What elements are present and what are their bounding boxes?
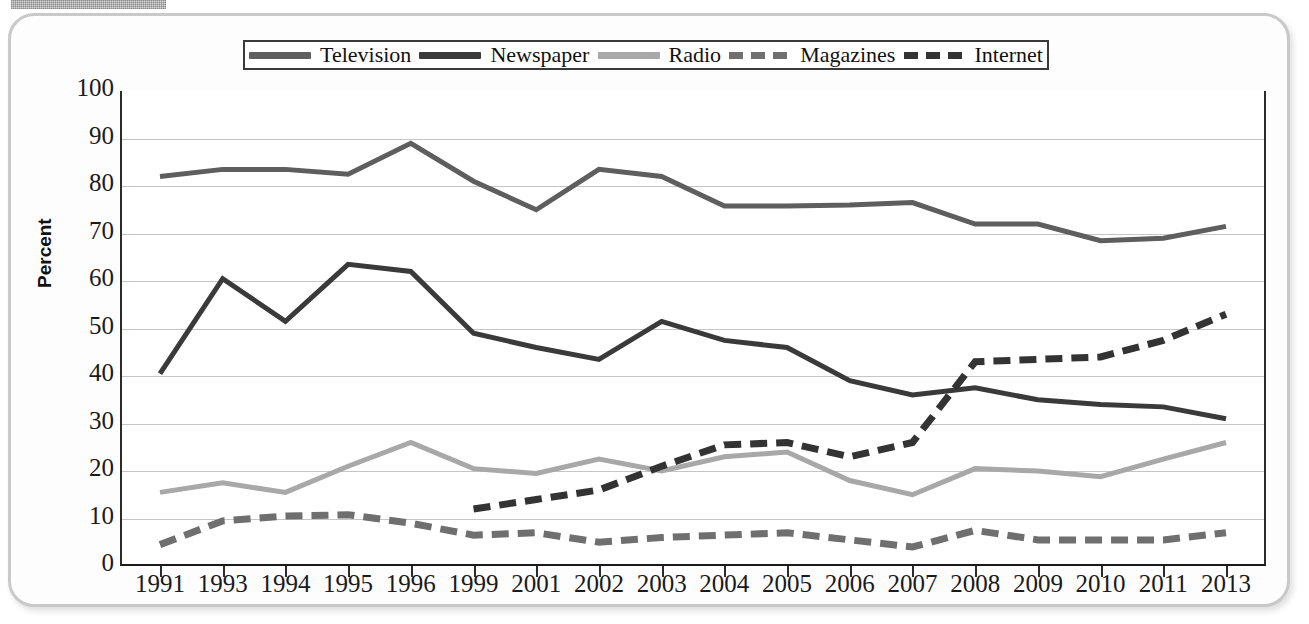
y-axis-tick-label: 100 [54, 74, 114, 102]
gridline [122, 424, 1264, 425]
legend-label: Radio [669, 42, 722, 68]
gridline [122, 329, 1264, 330]
y-axis-tick-label: 60 [54, 264, 114, 292]
gridline [122, 471, 1264, 472]
y-axis-tick-label: 0 [54, 549, 114, 577]
chart-legend: TelevisionNewspaperRadioMagazinesInterne… [243, 40, 1049, 70]
line-chart: Percent TelevisionNewspaperRadioMagazine… [0, 0, 1309, 624]
gridline [122, 139, 1264, 140]
gridline [122, 234, 1264, 235]
legend-item-television[interactable]: Television [249, 42, 411, 68]
legend-swatch-icon [729, 52, 791, 59]
legend-label: Magazines [800, 42, 895, 68]
legend-swatch-icon [419, 52, 481, 59]
x-axis-tick-label: 2013 [1186, 570, 1266, 598]
legend-label: Television [320, 42, 411, 68]
y-axis-tick-label: 10 [54, 502, 114, 530]
legend-label: Internet [975, 42, 1043, 68]
plot-area [120, 91, 1266, 566]
gridline [122, 186, 1264, 187]
y-axis-tick-label: 40 [54, 359, 114, 387]
legend-item-magazines[interactable]: Magazines [729, 42, 895, 68]
y-axis-tick-label: 70 [54, 217, 114, 245]
legend-swatch-icon [249, 52, 311, 59]
y-axis-tick-label: 30 [54, 407, 114, 435]
legend-swatch-icon [598, 52, 660, 59]
y-axis-tick-label: 90 [54, 122, 114, 150]
y-axis-tick-label: 20 [54, 454, 114, 482]
y-axis-label: Percent [34, 218, 56, 288]
legend-item-internet[interactable]: Internet [904, 42, 1043, 68]
gridline [122, 519, 1264, 520]
legend-item-radio[interactable]: Radio [598, 42, 722, 68]
legend-item-newspaper[interactable]: Newspaper [419, 42, 589, 68]
gridline [122, 281, 1264, 282]
y-axis-tick-label: 50 [54, 312, 114, 340]
legend-label: Newspaper [490, 42, 589, 68]
y-axis-tick-label: 80 [54, 169, 114, 197]
gridline [122, 376, 1264, 377]
legend-swatch-icon [904, 52, 966, 59]
